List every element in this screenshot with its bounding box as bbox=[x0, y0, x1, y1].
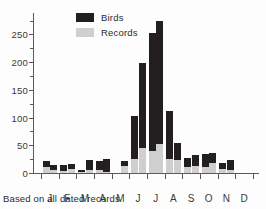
bar-segment-records bbox=[60, 171, 67, 173]
bar-S-late bbox=[174, 143, 181, 173]
bar-segment-birds bbox=[166, 111, 173, 159]
y-tick-200 bbox=[29, 62, 34, 63]
bar-D-early bbox=[219, 163, 226, 173]
y-tick-250 bbox=[29, 34, 34, 35]
y-minor-tick bbox=[30, 104, 34, 105]
legend-swatch-birds-icon bbox=[76, 13, 94, 22]
y-tick-0 bbox=[29, 173, 34, 174]
bar-A-late bbox=[103, 159, 110, 173]
y-minor-tick bbox=[30, 131, 34, 132]
bar-segment-records bbox=[86, 170, 93, 173]
x-tick bbox=[200, 174, 201, 179]
bar-M-early bbox=[78, 170, 85, 173]
bar-segment-birds bbox=[209, 153, 216, 164]
bar-J3-early bbox=[131, 116, 138, 173]
bar-J-early bbox=[43, 161, 50, 173]
bar-D-late bbox=[227, 160, 234, 173]
x-tick bbox=[129, 174, 130, 179]
bar-segment-birds bbox=[174, 143, 181, 160]
bar-S-early bbox=[166, 111, 173, 173]
x-tick bbox=[165, 174, 166, 179]
bar-segment-records bbox=[68, 169, 75, 173]
bar-segment-records bbox=[103, 172, 110, 173]
month-label-5: J bbox=[136, 193, 141, 204]
month-label-11: D bbox=[240, 193, 248, 204]
y-tick-50 bbox=[29, 145, 34, 146]
bar-segment-birds bbox=[103, 159, 110, 172]
x-axis-line bbox=[33, 173, 259, 174]
bar-segment-birds bbox=[86, 160, 93, 170]
x-tick bbox=[76, 174, 77, 179]
phenology-bar-chart: 050100150200250 JFMAMJJASOND Birds Recor… bbox=[0, 0, 266, 209]
bar-M-late bbox=[86, 160, 93, 173]
bar-O-late bbox=[192, 155, 199, 173]
bar-J3-late bbox=[139, 63, 146, 173]
bar-A2-late bbox=[156, 21, 163, 173]
bar-segment-records bbox=[50, 170, 57, 173]
bar-segment-records bbox=[192, 166, 199, 173]
bar-segment-records bbox=[166, 159, 173, 173]
bar-segment-birds bbox=[131, 116, 138, 159]
x-tick bbox=[147, 174, 148, 179]
bar-segment-records bbox=[174, 160, 181, 173]
bar-segment-records bbox=[121, 166, 128, 173]
bar-segment-records bbox=[227, 170, 234, 173]
y-tick-label-100: 100 bbox=[12, 112, 28, 123]
month-label-7: A bbox=[170, 193, 177, 204]
month-label-9: O bbox=[205, 193, 213, 204]
x-tick bbox=[59, 174, 60, 179]
bar-O-early bbox=[184, 157, 191, 173]
bar-segment-birds bbox=[96, 161, 103, 170]
bar-segment-records bbox=[156, 144, 163, 173]
y-minor-tick bbox=[30, 21, 34, 22]
bar-segment-records bbox=[96, 170, 103, 173]
month-label-10: N bbox=[223, 193, 231, 204]
y-tick-label-150: 150 bbox=[12, 84, 28, 95]
bar-segment-birds bbox=[192, 155, 199, 167]
y-tick-label-200: 200 bbox=[12, 57, 28, 68]
legend: Birds Records bbox=[76, 12, 138, 42]
legend-swatch-records-icon bbox=[76, 28, 94, 37]
bar-segment-records bbox=[43, 167, 50, 173]
x-tick bbox=[253, 174, 254, 179]
y-minor-tick bbox=[30, 159, 34, 160]
bar-segment-birds bbox=[139, 63, 146, 148]
x-tick bbox=[112, 174, 113, 179]
bar-segment-records bbox=[184, 167, 191, 173]
legend-label-records: Records bbox=[101, 27, 138, 38]
bar-J2-early bbox=[121, 161, 128, 173]
month-label-6: J bbox=[153, 193, 158, 204]
bar-segment-records bbox=[139, 148, 146, 173]
y-tick-label-0: 0 bbox=[23, 168, 28, 179]
chart-caption: Based on all dated records bbox=[3, 193, 120, 204]
plot-area: 050100150200250 JFMAMJJASOND bbox=[33, 13, 259, 174]
x-tick bbox=[94, 174, 95, 179]
bar-N-late bbox=[209, 153, 216, 174]
y-tick-label-50: 50 bbox=[17, 140, 28, 151]
bar-segment-birds bbox=[149, 33, 156, 151]
bar-segment-records bbox=[149, 151, 156, 173]
y-minor-tick bbox=[30, 48, 34, 49]
x-tick bbox=[218, 174, 219, 179]
bar-segment-birds bbox=[43, 161, 50, 168]
bar-J-late bbox=[50, 165, 57, 173]
bar-F-early bbox=[60, 165, 67, 173]
bar-segment-records bbox=[78, 172, 85, 173]
x-tick bbox=[235, 174, 236, 179]
bar-A-early bbox=[96, 161, 103, 173]
x-tick bbox=[182, 174, 183, 179]
bar-segment-records bbox=[209, 163, 216, 173]
bar-segment-birds bbox=[156, 21, 163, 144]
y-tick-150 bbox=[29, 90, 34, 91]
bar-segment-birds bbox=[184, 158, 191, 168]
y-minor-tick bbox=[30, 76, 34, 77]
bar-N-early bbox=[202, 154, 209, 173]
legend-item-birds: Birds bbox=[76, 12, 138, 23]
bar-segment-records bbox=[131, 159, 138, 173]
bar-segment-birds bbox=[227, 160, 234, 169]
bar-A2-early bbox=[149, 33, 156, 173]
bar-segment-birds bbox=[202, 154, 209, 167]
month-label-8: S bbox=[188, 193, 195, 204]
y-tick-100 bbox=[29, 118, 34, 119]
x-tick bbox=[41, 174, 42, 179]
